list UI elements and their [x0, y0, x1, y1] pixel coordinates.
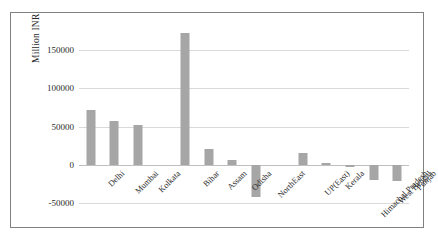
- bar[interactable]: [86, 110, 95, 165]
- y-axis-tick-label: -50000: [49, 199, 75, 208]
- bar-slot: [385, 31, 409, 203]
- y-axis-tick-label: 0: [70, 160, 75, 169]
- bar[interactable]: [322, 163, 331, 165]
- bar[interactable]: [204, 149, 213, 165]
- bar[interactable]: [228, 160, 237, 165]
- chart-figure: Million INR 150000100000500000-50000 Del…: [10, 12, 424, 228]
- bar[interactable]: [181, 33, 190, 164]
- y-axis-tick-label: 100000: [47, 84, 74, 93]
- bar[interactable]: [393, 165, 402, 181]
- y-axis-tick-label: 150000: [47, 46, 74, 55]
- bar[interactable]: [346, 165, 355, 167]
- bar[interactable]: [133, 125, 142, 165]
- bar[interactable]: [298, 153, 307, 164]
- bar-slot: [79, 31, 103, 203]
- bar-slot: [362, 31, 386, 203]
- plot-area: 150000100000500000-50000 DelhiMumbaiKolk…: [79, 31, 409, 203]
- y-axis-tick-label: 50000: [52, 122, 75, 131]
- y-axis-title: Million INR: [31, 14, 41, 63]
- gridline: [79, 203, 409, 204]
- bar[interactable]: [110, 121, 119, 165]
- bar[interactable]: [369, 165, 378, 180]
